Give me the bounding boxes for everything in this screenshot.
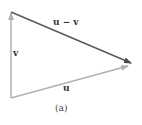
figure-caption: (a) bbox=[55, 104, 67, 113]
vector-u bbox=[11, 66, 128, 98]
label-v: v bbox=[13, 49, 18, 58]
label-u: u bbox=[63, 84, 70, 93]
label-u-minus-v: u − v bbox=[53, 18, 79, 27]
